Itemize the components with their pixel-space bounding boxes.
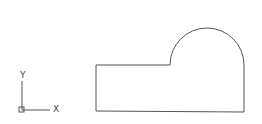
x-axis-label: X (53, 104, 59, 114)
ucs-icon: Y X (19, 70, 59, 114)
profile-shape (96, 28, 244, 112)
drawing-canvas: Y X (0, 0, 262, 124)
y-axis-label: Y (19, 70, 26, 80)
